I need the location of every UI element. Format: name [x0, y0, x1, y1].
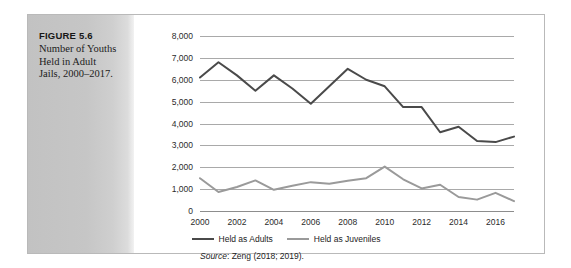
x-tick-label: 2016 [486, 217, 505, 227]
figure-caption: FIGURE 5.6 Number of Youths Held in Adul… [39, 29, 131, 81]
source-note: Source: Zeng (2018; 2019). [200, 251, 304, 261]
series-line-held-as-adults [200, 62, 514, 142]
legend-swatch-icon [287, 238, 309, 241]
legend-label: Held as Adults [219, 234, 273, 244]
plot-area: 01,0002,0003,0004,0005,0006,0007,0008,00… [200, 36, 514, 211]
y-tick-label: 2,000 [172, 162, 193, 172]
source-citation: Zeng (2018; 2019). [232, 251, 304, 261]
x-tick-label: 2008 [338, 217, 357, 227]
x-tick-label: 2012 [412, 217, 431, 227]
chart-legend: Held as AdultsHeld as Juveniles [28, 234, 544, 244]
legend-item: Held as Adults [192, 234, 273, 244]
legend-swatch-icon [192, 238, 214, 241]
y-tick-label: 3,000 [172, 140, 193, 150]
figure-page: FIGURE 5.6 Number of Youths Held in Adul… [0, 0, 571, 268]
figure-caption-body: Number of Youths Held in Adult Jails, 20… [39, 43, 131, 81]
figure-number-label: FIGURE 5.6 [39, 29, 131, 42]
y-tick-label: 1,000 [172, 184, 193, 194]
gridline-0 [200, 211, 514, 212]
x-tick-label: 2000 [191, 217, 210, 227]
x-tick-label: 2010 [375, 217, 394, 227]
chart-area: 01,0002,0003,0004,0005,0006,0007,0008,00… [134, 15, 544, 253]
caption-panel: FIGURE 5.6 Number of Youths Held in Adul… [28, 15, 134, 253]
x-tick-label: 2002 [227, 217, 246, 227]
series-lines [200, 36, 514, 211]
x-tick-label: 2006 [301, 217, 320, 227]
y-tick-label: 4,000 [172, 119, 193, 129]
source-word: Source [200, 251, 227, 261]
legend-item: Held as Juveniles [287, 234, 381, 244]
caption-line-1: Number of Youths [39, 43, 131, 56]
figure-frame: FIGURE 5.6 Number of Youths Held in Adul… [27, 14, 545, 254]
y-tick-label: 6,000 [172, 75, 193, 85]
x-tick-label: 2004 [264, 217, 283, 227]
y-tick-label: 7,000 [172, 53, 193, 63]
caption-line-2: Held in Adult [39, 56, 131, 69]
x-tick-label: 2014 [449, 217, 468, 227]
y-tick-label: 0 [188, 206, 193, 216]
legend-label: Held as Juveniles [314, 234, 381, 244]
series-line-held-as-juveniles [200, 167, 514, 202]
y-tick-label: 5,000 [172, 97, 193, 107]
caption-line-3: Jails, 2000–2017. [39, 68, 131, 81]
y-tick-label: 8,000 [172, 31, 193, 41]
